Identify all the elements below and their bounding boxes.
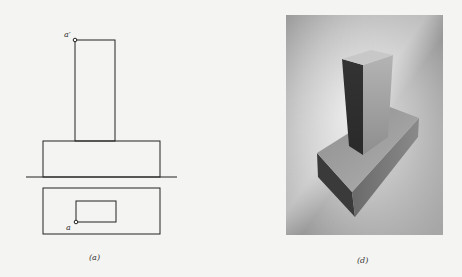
point-label-a: a: [66, 223, 71, 232]
point-a-prime-marker: [73, 38, 77, 42]
point-a-marker: [74, 220, 78, 224]
top-view-column: [76, 201, 116, 222]
front-view-column: [75, 40, 115, 141]
caption-d: (d): [357, 256, 368, 265]
caption-a: (a): [89, 253, 100, 262]
top-view-base: [43, 188, 160, 234]
figure-canvas: [0, 0, 462, 277]
orthographic-drawing: [26, 38, 177, 234]
point-label-a-prime: a′: [64, 30, 71, 39]
shaded-render: [286, 15, 443, 235]
front-view-base: [43, 141, 160, 177]
